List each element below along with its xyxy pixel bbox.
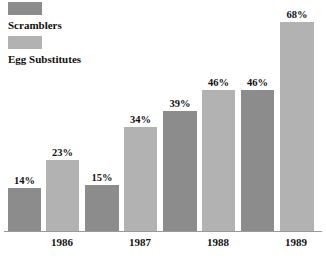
year-label: 1989: [271, 236, 321, 249]
bar-chart: Scramblers Egg Substitutes 14%23%15%34%3…: [0, 0, 326, 260]
bar-value-label: 14%: [8, 175, 41, 186]
x-axis-line: [4, 231, 322, 232]
bar: [124, 127, 157, 231]
bar: [241, 90, 274, 231]
bar: [163, 111, 197, 231]
bar: [202, 90, 235, 231]
year-label: 1988: [193, 236, 243, 249]
bar-value-label: 34%: [124, 114, 157, 125]
bar-value-label: 46%: [241, 77, 274, 88]
year-label: 1986: [37, 236, 87, 249]
bar-value-label: 68%: [280, 9, 314, 20]
bar: [280, 22, 314, 231]
bar-value-label: 39%: [163, 98, 197, 109]
bar-value-label: 46%: [202, 77, 235, 88]
bar: [46, 160, 79, 231]
plot-area: 14%23%15%34%39%46%46%68% 198619871988198…: [0, 0, 326, 260]
bar: [8, 188, 41, 231]
bar: [85, 185, 119, 231]
year-label: 1987: [115, 236, 165, 249]
bar-value-label: 23%: [46, 147, 79, 158]
bar-value-label: 15%: [85, 172, 119, 183]
